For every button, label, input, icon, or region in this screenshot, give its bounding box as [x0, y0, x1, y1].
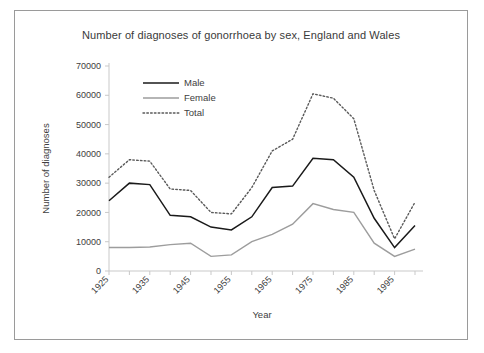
- x-tick-label: 1965: [252, 274, 273, 295]
- legend-label-total: Total: [184, 107, 204, 118]
- y-tick-label: 20000: [76, 208, 101, 218]
- x-tick-label: 1925: [89, 274, 110, 295]
- series-line-female: [109, 204, 415, 257]
- y-tick-label: 60000: [76, 90, 101, 100]
- y-tick-label: 0: [96, 266, 101, 276]
- y-tick-label: 50000: [76, 120, 101, 130]
- x-tick-label: 1995: [375, 274, 396, 295]
- x-tick-label: 1935: [130, 274, 151, 295]
- x-tick-label: 1975: [293, 274, 314, 295]
- chart-plot-area: 7000060000500004000030000200001000001925…: [15, 11, 469, 341]
- x-tick-label: 1945: [171, 274, 192, 295]
- x-tick-label: 1985: [334, 274, 355, 295]
- legend-label-female: Female: [184, 92, 216, 103]
- y-axis-title: Number of diagnoses: [40, 123, 51, 214]
- y-tick-label: 10000: [76, 237, 101, 247]
- chart-frame: Number of diagnoses of gonorrhoea by sex…: [14, 10, 468, 340]
- x-axis-title: Year: [252, 309, 271, 320]
- y-tick-label: 40000: [76, 149, 101, 159]
- chart-svg: 7000060000500004000030000200001000001925…: [15, 11, 469, 341]
- legend-label-male: Male: [184, 77, 205, 88]
- y-tick-label: 70000: [76, 61, 101, 71]
- series-line-total: [109, 94, 415, 239]
- y-tick-label: 30000: [76, 178, 101, 188]
- x-tick-label: 1955: [212, 274, 233, 295]
